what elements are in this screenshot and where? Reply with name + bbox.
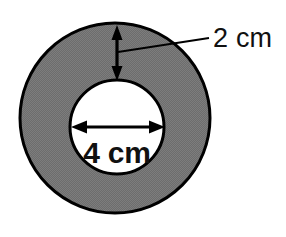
annulus-figure: 2 cm 4 cm: [0, 0, 286, 237]
ring-width-label: 2 cm: [213, 23, 272, 53]
annulus-diagram-svg: 2 cm 4 cm: [0, 0, 286, 237]
hole-diameter-label: 4 cm: [83, 136, 151, 169]
